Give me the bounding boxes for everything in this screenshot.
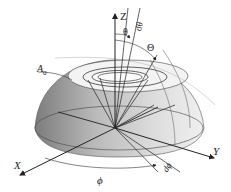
hemisphere: [35, 50, 215, 157]
x-axis-label: X: [14, 160, 21, 171]
y-axis-label: Y: [213, 146, 219, 157]
big-theta-label: Θ: [147, 43, 154, 53]
area-a0-label: A0: [37, 64, 47, 77]
diagram-graphic: [0, 0, 231, 192]
hemisphere-diagram: Z θ dθ Θ A0 X Y ϕ dϕ: [0, 0, 231, 192]
z-axis-label: Z: [120, 11, 127, 22]
theta-label: θ: [123, 27, 128, 37]
phi-label: ϕ: [97, 175, 103, 186]
